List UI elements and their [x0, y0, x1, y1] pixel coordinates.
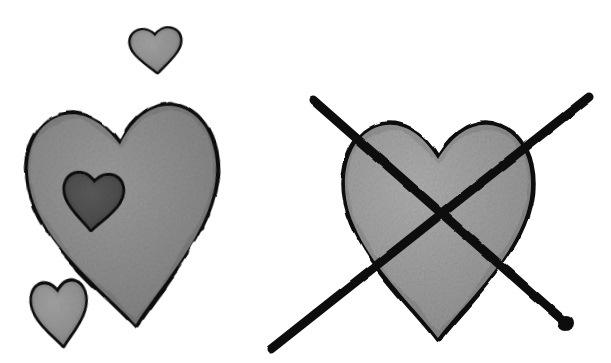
stroke-end-blob [558, 315, 574, 331]
drawing-canvas: Hand-drawn heart illustration with cross… [0, 0, 611, 363]
illustration-svg [0, 0, 611, 363]
